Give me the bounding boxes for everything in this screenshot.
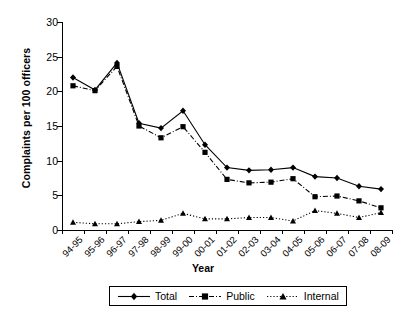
x-tick-mark: [106, 230, 107, 234]
y-tick-label: 15: [46, 120, 58, 132]
x-tick-mark: [84, 230, 85, 234]
x-tick-mark: [216, 230, 217, 234]
data-point: [70, 219, 76, 225]
y-axis-title: Complaints per 100 officers: [20, 18, 32, 218]
data-point: [290, 176, 295, 181]
x-tick-mark: [128, 230, 129, 234]
data-point: [92, 88, 97, 93]
data-point: [246, 167, 252, 173]
x-tick-label: 96-97: [104, 234, 129, 259]
data-point: [180, 210, 186, 216]
data-point: [268, 214, 274, 220]
x-tick-mark: [326, 230, 327, 234]
y-tick-label: 30: [46, 16, 58, 28]
y-tick-label: 20: [46, 85, 58, 97]
y-tick-label: 0: [52, 224, 58, 236]
x-tick-mark: [392, 230, 393, 234]
x-tick-mark: [348, 230, 349, 234]
series-internal: [70, 207, 384, 226]
data-point: [70, 83, 75, 88]
x-tick-label: 06-07: [324, 234, 349, 259]
x-axis-title: Year: [0, 262, 406, 274]
x-tick-label: 97-98: [126, 234, 151, 259]
plot-area: 051015202530: [62, 22, 392, 230]
data-point: [356, 183, 362, 189]
legend-item-internal: Internal: [266, 290, 339, 302]
x-tick-label: 01-02: [214, 234, 239, 259]
legend-key-internal-icon: [266, 291, 300, 302]
data-point: [202, 150, 207, 155]
x-tick-label: 04-05: [280, 234, 305, 259]
data-point: [334, 175, 340, 181]
data-point: [312, 194, 317, 199]
legend-label-public: Public: [226, 290, 255, 302]
y-tick-label: 25: [46, 51, 58, 63]
series-total: [70, 60, 384, 193]
series-public: [70, 64, 383, 211]
data-point: [268, 166, 274, 172]
x-tick-mark: [370, 230, 371, 234]
y-tick-label: 10: [46, 155, 58, 167]
data-point: [136, 123, 141, 128]
x-tick-label: 95-96: [82, 234, 107, 259]
data-point: [312, 173, 318, 179]
data-point: [158, 135, 163, 140]
x-tick-mark: [260, 230, 261, 234]
x-tick-label: 00-01: [192, 234, 217, 259]
data-point: [114, 64, 119, 69]
data-point: [378, 186, 384, 192]
x-tick-mark: [194, 230, 195, 234]
data-point: [312, 207, 318, 213]
x-tick-label: 05-06: [302, 234, 327, 259]
chart-legend: Total Public Internal: [109, 286, 347, 306]
legend-item-public: Public: [188, 290, 255, 302]
x-tick-mark: [238, 230, 239, 234]
x-tick-mark: [304, 230, 305, 234]
x-tick-label: 94-95: [60, 234, 85, 259]
data-point: [290, 218, 296, 224]
complaints-line-chart: Complaints per 100 officers 051015202530…: [0, 0, 406, 318]
x-tick-label: 98-99: [148, 234, 173, 259]
legend-key-public-icon: [188, 291, 222, 302]
y-tick-label: 5: [52, 189, 58, 201]
x-tick-mark: [172, 230, 173, 234]
x-tick-label: 03-04: [258, 234, 283, 259]
data-point: [268, 180, 273, 185]
x-tick-label: 08-09: [368, 234, 393, 259]
legend-label-internal: Internal: [304, 290, 339, 302]
legend-key-total-icon: [117, 291, 151, 302]
x-tick-label: 02-03: [236, 234, 261, 259]
data-point: [180, 124, 185, 129]
data-point: [334, 193, 339, 198]
x-axis-line: [62, 230, 392, 231]
data-point: [290, 164, 296, 170]
x-tick-mark: [282, 230, 283, 234]
data-point: [356, 198, 361, 203]
data-point: [70, 74, 76, 80]
series-line: [73, 66, 381, 207]
x-tick-mark: [150, 230, 151, 234]
data-point: [246, 180, 251, 185]
series-layer: [62, 22, 392, 230]
x-tick-mark: [62, 230, 63, 234]
x-tick-label: 99-00: [170, 234, 195, 259]
x-tick-label: 07-08: [346, 234, 371, 259]
legend-item-total: Total: [117, 290, 177, 302]
data-point: [224, 177, 229, 182]
legend-label-total: Total: [155, 290, 177, 302]
